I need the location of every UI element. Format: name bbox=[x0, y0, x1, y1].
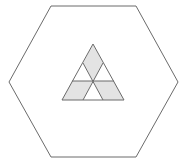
shaded-regions bbox=[62, 44, 124, 100]
top-rhombus bbox=[83, 44, 103, 81]
diagram-canvas bbox=[0, 0, 188, 160]
